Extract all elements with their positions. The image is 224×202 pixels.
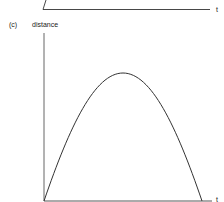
y-axis-label: distance xyxy=(32,21,58,29)
top-curve-fragment xyxy=(43,0,46,10)
chart-canvas xyxy=(0,0,224,202)
panel-label: (c) xyxy=(9,21,17,29)
x-axis-label: t xyxy=(216,196,218,202)
top-x-axis-label: t xyxy=(216,6,218,14)
distance-curve xyxy=(44,73,202,201)
